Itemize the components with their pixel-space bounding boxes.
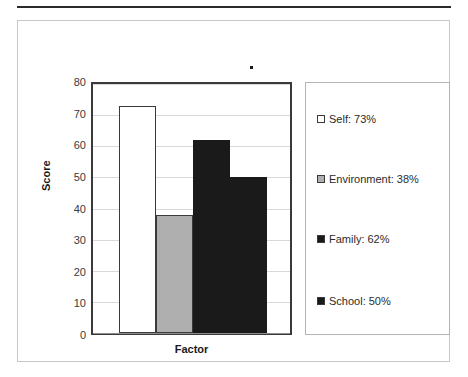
y-tick-label: 10 <box>64 298 86 309</box>
y-tick-label: 30 <box>64 235 86 246</box>
bar-group <box>119 84 267 333</box>
bar-environment[interactable] <box>156 215 193 333</box>
legend-item-self[interactable]: Self: 73% <box>317 113 376 125</box>
y-tick-label: 70 <box>64 108 86 119</box>
stray-mark-icon <box>250 66 253 69</box>
header-rule <box>17 6 451 8</box>
y-tick-label: 20 <box>64 266 86 277</box>
plot-inner <box>93 84 290 333</box>
legend-swatch-self-icon <box>317 115 325 123</box>
y-axis-title: Score <box>40 160 52 191</box>
bar-family[interactable] <box>193 140 230 333</box>
x-axis-title: Factor <box>91 343 292 355</box>
plot-area <box>91 82 292 335</box>
y-tick-label: 80 <box>64 77 86 88</box>
y-axis-tick-labels: 80 70 60 50 40 30 20 10 0 <box>62 82 86 335</box>
legend-item-school[interactable]: School: 50% <box>317 295 391 307</box>
legend-label-school: School: 50% <box>329 295 391 307</box>
bar-self[interactable] <box>119 106 156 333</box>
legend-label-self: Self: 73% <box>329 113 376 125</box>
legend-swatch-family-icon <box>317 235 325 243</box>
legend-swatch-environment-icon <box>317 175 325 183</box>
legend-item-family[interactable]: Family: 62% <box>317 233 390 245</box>
legend-item-environment[interactable]: Environment: 38% <box>317 173 419 185</box>
figure-container: Score 80 70 60 50 40 30 20 10 0 <box>17 20 450 362</box>
bar-school[interactable] <box>230 177 267 333</box>
axis-baseline <box>93 333 290 334</box>
legend-label-environment: Environment: 38% <box>329 173 419 185</box>
y-tick-label: 50 <box>64 171 86 182</box>
y-tick-label: 0 <box>64 330 86 341</box>
legend-swatch-school-icon <box>317 297 325 305</box>
chart-legend: Self: 73% Environment: 38% Family: 62% S… <box>305 82 450 335</box>
y-tick-label: 40 <box>64 203 86 214</box>
y-tick-label: 60 <box>64 140 86 151</box>
legend-label-family: Family: 62% <box>329 233 390 245</box>
